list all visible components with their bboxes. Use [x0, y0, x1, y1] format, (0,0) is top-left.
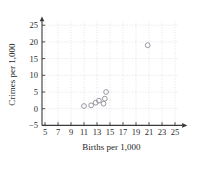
- y-tick-label: 5: [34, 87, 38, 97]
- data-point: [145, 43, 150, 48]
- x-axis-arrow: [182, 123, 187, 128]
- y-axis-arrow: [40, 17, 45, 22]
- axis-lines: [40, 17, 188, 128]
- x-tick-label: 13: [93, 127, 102, 137]
- x-axis-tick-labels: 5791113151719212325: [43, 127, 179, 137]
- y-axis-tick-labels: −50510152025: [29, 20, 38, 130]
- x-tick-label: 11: [80, 127, 88, 137]
- data-point: [102, 96, 107, 101]
- x-tick-label: 9: [69, 127, 73, 137]
- x-tick-label: 17: [119, 127, 128, 137]
- y-axis-title: Crimes per 1,000: [7, 43, 17, 106]
- x-tick-label: 23: [158, 127, 167, 137]
- data-point: [89, 103, 94, 108]
- horizontal-gridlines: [49, 25, 179, 109]
- x-tick-label: 5: [43, 127, 47, 137]
- y-tick-label: 15: [30, 54, 39, 64]
- data-point: [101, 101, 106, 106]
- y-tick-label: −5: [29, 120, 38, 130]
- x-tick-label: 25: [171, 127, 180, 137]
- chart-plot-area: 5791113151719212325 −50510152025 Births …: [0, 0, 206, 175]
- vertical-gridlines: [45, 22, 175, 127]
- x-tick-label: 21: [145, 127, 154, 137]
- x-tick-label: 19: [132, 127, 141, 137]
- y-tick-label: 25: [30, 20, 39, 30]
- x-tick-label: 7: [56, 127, 60, 137]
- y-tick-label: 20: [30, 37, 39, 47]
- x-axis-title: Births per 1,000: [82, 142, 141, 152]
- x-tick-label: 15: [106, 127, 115, 137]
- data-point-markers: [82, 43, 151, 109]
- scatter-chart: 5791113151719212325 −50510152025 Births …: [0, 0, 206, 175]
- y-tick-label: 10: [30, 70, 39, 80]
- y-tick-label: 0: [34, 104, 38, 114]
